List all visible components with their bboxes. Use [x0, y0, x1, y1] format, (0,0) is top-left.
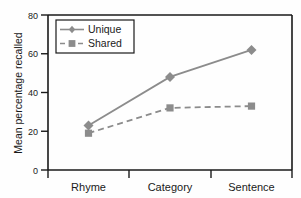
square-marker-icon — [69, 40, 76, 47]
line-chart: 80 60 40 20 0 Mean percentage recalled R… — [0, 0, 301, 198]
series-unique-point-category — [165, 72, 175, 82]
x-axis-ticks — [48, 170, 292, 178]
y-tick-label-40: 40 — [28, 88, 38, 98]
series-unique — [84, 45, 257, 130]
y-axis-ticks — [41, 15, 48, 170]
series-shared — [85, 103, 255, 137]
series-unique-point-sentence — [247, 45, 257, 55]
series-shared-point-category — [166, 104, 173, 111]
series-shared-point-rhyme — [85, 130, 92, 137]
x-category-label-rhyme: Rhyme — [71, 181, 106, 193]
y-tick-label-0: 0 — [33, 166, 38, 176]
chart-figure: 80 60 40 20 0 Mean percentage recalled R… — [0, 0, 301, 198]
legend-label-shared: Shared — [88, 37, 122, 49]
legend-label-unique: Unique — [88, 23, 121, 35]
y-tick-label-20: 20 — [28, 127, 38, 137]
x-category-label-category: Category — [148, 181, 193, 193]
x-category-label-sentence: Sentence — [228, 181, 274, 193]
series-unique-line — [89, 50, 252, 126]
y-tick-label-80: 80 — [28, 11, 38, 21]
chart-legend: Unique Shared — [56, 20, 134, 53]
series-unique-point-rhyme — [84, 120, 94, 130]
y-tick-label-60: 60 — [28, 49, 38, 59]
series-shared-point-sentence — [248, 103, 255, 110]
y-axis-title: Mean percentage recalled — [12, 32, 24, 154]
